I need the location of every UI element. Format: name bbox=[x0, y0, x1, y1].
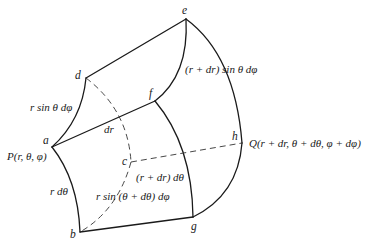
vertex-label-h: h bbox=[232, 130, 238, 142]
edge-label-r-dtheta: r dθ bbox=[50, 185, 69, 197]
edge-d-e bbox=[86, 19, 186, 78]
hidden-edge-d-c bbox=[86, 78, 131, 162]
edge-h-g bbox=[193, 143, 242, 217]
vertex-label-f: f bbox=[149, 87, 154, 100]
vertex-label-e: e bbox=[182, 4, 187, 16]
vertex-label-a: a bbox=[43, 134, 49, 146]
edge-b-g bbox=[80, 217, 193, 232]
edge-label-r-plus-dr-dtheta: (r + dr) dθ bbox=[136, 171, 185, 184]
edge-label-dr: dr bbox=[104, 123, 115, 135]
edge-label-r-plus-dr-sin-theta-dphi: (r + dr) sin θ dφ bbox=[185, 63, 257, 76]
vertex-label-c: c bbox=[122, 155, 127, 167]
edge-label-r-sin-theta-plus-dtheta-dphi: r sin (θ + dθ) dφ bbox=[96, 190, 170, 203]
point-label-Q: Q(r + dr, θ + dθ, φ + dφ) bbox=[249, 137, 361, 150]
hidden-edge-c-h bbox=[131, 143, 242, 162]
point-label-P: P(r, θ, φ) bbox=[6, 150, 47, 163]
edge-e-h bbox=[186, 19, 242, 143]
spherical-volume-element-diagram: e d f a c h b g P(r, θ, φ) Q(r + dr, θ +… bbox=[0, 0, 371, 250]
vertex-label-b: b bbox=[70, 228, 76, 240]
vertex-label-g: g bbox=[191, 220, 197, 233]
vertex-label-d: d bbox=[75, 69, 81, 81]
edge-e-f bbox=[155, 19, 186, 101]
edge-label-r-sin-theta-dphi: r sin θ dφ bbox=[30, 101, 72, 113]
